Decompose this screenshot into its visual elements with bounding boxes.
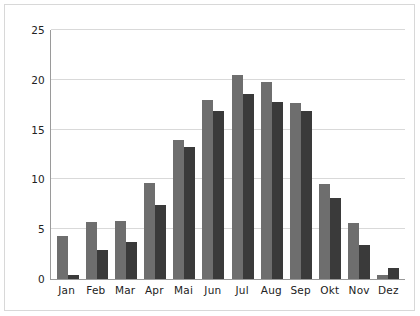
bar-group-feb (82, 30, 111, 279)
bar-feb-series-1 (86, 222, 97, 279)
x-tick-label-nov: Nov (345, 284, 374, 296)
y-tick-label-15: 15 (23, 124, 45, 136)
bar-sep-series-2 (301, 111, 312, 279)
bar-apr-series-1 (144, 183, 155, 279)
y-tick-label-5: 5 (23, 223, 45, 235)
y-tick-label-0: 0 (23, 273, 45, 285)
bar-group-sep (286, 30, 315, 279)
x-tick-label-sep: Sep (286, 284, 315, 296)
bar-group-jan (53, 30, 82, 279)
x-axis-category-labels: JanFebMarAprMaiJunJulAugSepOktNovDez (50, 284, 405, 296)
bar-group-apr (141, 30, 170, 279)
bar-sep-series-1 (290, 103, 301, 279)
x-tick-label-jul: Jul (228, 284, 257, 296)
bar-dez-series-2 (388, 268, 399, 279)
bar-group-nov (345, 30, 374, 279)
x-tick-label-feb: Feb (81, 284, 110, 296)
bar-feb-series-2 (97, 250, 108, 279)
bar-group-mar (111, 30, 140, 279)
bar-jul-series-2 (243, 94, 254, 279)
bar-groups (51, 30, 405, 279)
x-tick-label-dez: Dez (374, 284, 403, 296)
x-tick-label-aug: Aug (257, 284, 286, 296)
bar-jan-series-1 (57, 236, 68, 279)
x-tick-label-mar: Mar (111, 284, 140, 296)
x-tick-label-jun: Jun (198, 284, 227, 296)
chart-frame: 0510152025 JanFebMarAprMaiJunJulAugSepOk… (4, 4, 415, 311)
bar-group-jul (228, 30, 257, 279)
bar-group-jun (199, 30, 228, 279)
bar-group-okt (316, 30, 345, 279)
bar-jun-series-1 (202, 100, 213, 279)
plot-area (50, 30, 405, 280)
y-tick-label-20: 20 (23, 74, 45, 86)
bar-jun-series-2 (213, 111, 224, 279)
bar-dez-series-1 (377, 275, 388, 279)
bar-nov-series-1 (348, 223, 359, 279)
y-tick-label-10: 10 (23, 173, 45, 185)
x-tick-label-jan: Jan (52, 284, 81, 296)
bar-apr-series-2 (155, 205, 166, 279)
bar-group-aug (257, 30, 286, 279)
bar-group-mai (170, 30, 199, 279)
bar-mai-series-2 (184, 147, 195, 279)
bar-jan-series-2 (68, 275, 79, 279)
bar-mai-series-1 (173, 140, 184, 279)
bar-okt-series-2 (330, 198, 341, 279)
bar-mar-series-1 (115, 221, 126, 279)
x-tick-label-okt: Okt (315, 284, 344, 296)
bar-aug-series-1 (261, 82, 272, 279)
bar-mar-series-2 (126, 242, 137, 279)
bar-group-dez (374, 30, 403, 279)
bar-nov-series-2 (359, 245, 370, 279)
bar-okt-series-1 (319, 184, 330, 279)
x-tick-label-apr: Apr (140, 284, 169, 296)
bar-jul-series-1 (232, 75, 243, 279)
y-tick-label-25: 25 (23, 24, 45, 36)
bar-aug-series-2 (272, 102, 283, 279)
x-tick-label-mai: Mai (169, 284, 198, 296)
